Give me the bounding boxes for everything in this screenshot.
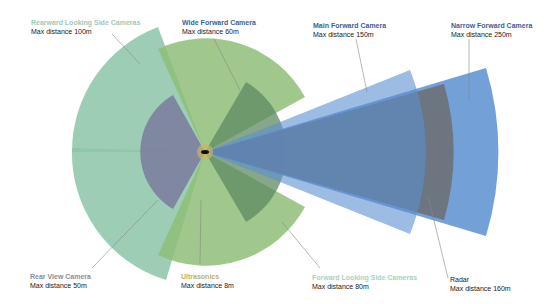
- wide-forward-camera-title: Wide Forward Camera: [182, 18, 256, 27]
- rearward-side-cameras-title: Rearward Looking Side Cameras: [31, 18, 140, 27]
- radar-title: Radar: [450, 275, 511, 284]
- rear-view-camera-range: Max distance 50m: [30, 281, 91, 290]
- main-forward-camera-range: Max distance 150m: [313, 30, 386, 39]
- label-narrow-forward-camera: Narrow Forward Camera Max distance 250m: [451, 21, 532, 39]
- label-main-forward-camera: Main Forward Camera Max distance 150m: [313, 21, 386, 39]
- label-radar: Radar Max distance 160m: [450, 275, 511, 293]
- main-forward-camera-title: Main Forward Camera: [313, 21, 386, 30]
- car-icon: [201, 150, 209, 154]
- label-forward-side-cameras: Forward Looking Side Cameras Max distanc…: [312, 273, 417, 291]
- narrow-forward-camera-range: Max distance 250m: [451, 30, 532, 39]
- wide-forward-camera-range: Max distance 60m: [182, 27, 256, 36]
- rear-view-camera-title: Rear View Camera: [30, 272, 91, 281]
- forward-side-cameras-range: Max distance 80m: [312, 282, 417, 291]
- rearward-side-cameras-range: Max distance 100m: [31, 27, 140, 36]
- coverage-diagram: [0, 0, 549, 304]
- label-wide-forward-camera: Wide Forward Camera Max distance 60m: [182, 18, 256, 36]
- narrow-forward-camera-title: Narrow Forward Camera: [451, 21, 532, 30]
- label-rearward-side-cameras: Rearward Looking Side Cameras Max distan…: [31, 18, 140, 36]
- ultrasonics-range: Max distance 8m: [181, 281, 234, 290]
- ultrasonics-title: Ultrasonics: [181, 272, 234, 281]
- forward-side-cameras-title: Forward Looking Side Cameras: [312, 273, 417, 282]
- radar-range: Max distance 160m: [450, 284, 511, 293]
- label-rear-view-camera: Rear View Camera Max distance 50m: [30, 272, 91, 290]
- label-ultrasonics: Ultrasonics Max distance 8m: [181, 272, 234, 290]
